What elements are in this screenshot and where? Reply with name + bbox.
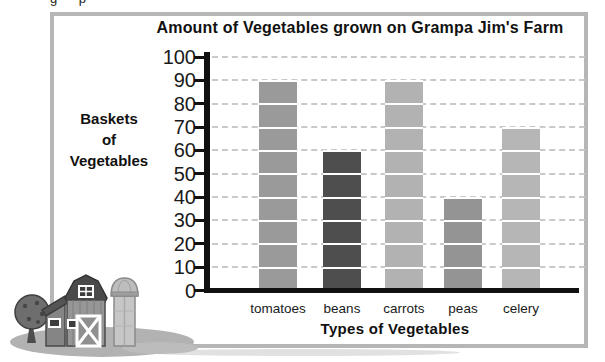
y-tick-mark-90 xyxy=(194,79,204,82)
bar-celery xyxy=(502,127,540,290)
chart-title: Amount of Vegetables grown on Grampa Jim… xyxy=(148,19,572,37)
y-tick-label-40: 40 xyxy=(138,185,196,209)
barn-door-icon xyxy=(77,316,100,346)
bar-beans xyxy=(323,150,361,290)
y-tick-label-70: 70 xyxy=(138,115,196,139)
barn-building-icon xyxy=(42,275,107,346)
y-tick-label-100: 100 xyxy=(138,45,196,69)
x-axis-label: Types of Vegetables xyxy=(240,320,550,337)
cropped-text-fragment: g p xyxy=(50,0,110,7)
y-tick-mark-30 xyxy=(194,219,204,222)
y-axis-line xyxy=(204,52,210,293)
y-tick-mark-40 xyxy=(194,196,204,199)
worksheet-page: g p Amount of Vegetables grown on Grampa… xyxy=(0,0,605,362)
y-tick-label-30: 30 xyxy=(138,208,196,232)
y-tick-mark-50 xyxy=(194,172,204,175)
silo-icon xyxy=(111,278,138,346)
y-tick-mark-100 xyxy=(194,56,204,59)
x-axis-line xyxy=(204,288,579,293)
y-tick-label-90: 90 xyxy=(138,68,196,92)
bar-peas xyxy=(444,197,482,290)
bar-carrots xyxy=(385,80,423,290)
gridline-100 xyxy=(212,56,585,58)
y-tick-label-50: 50 xyxy=(138,162,196,186)
y-tick-label-80: 80 xyxy=(138,92,196,116)
barn-icon xyxy=(2,236,198,362)
x-tick-label-celery: celery xyxy=(476,301,566,316)
y-tick-mark-70 xyxy=(194,126,204,129)
bar-tomatoes xyxy=(259,80,297,290)
y-tick-mark-80 xyxy=(194,102,204,105)
y-tick-mark-60 xyxy=(194,149,204,152)
y-tick-label-60: 60 xyxy=(138,138,196,162)
